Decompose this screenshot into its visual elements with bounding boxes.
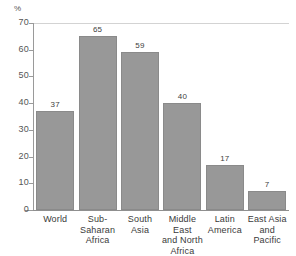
bar-middle-east-and-north-africa: 40 [163,103,201,210]
x-axis-category-label: World [34,214,76,225]
bar-south-asia: 59 [121,52,159,210]
bar-rect [163,103,201,210]
bar-rect [79,36,117,210]
category-label-line: Africa [161,246,203,256]
x-axis-category-label: East Asiaand Pacific [246,214,288,246]
category-label-line: and North [161,235,203,246]
category-label-line: Latin [204,214,246,225]
category-label-line: and Pacific [246,225,288,246]
category-label-line: America [204,225,246,236]
category-label-line: Asia [119,225,161,236]
bar-rect [36,111,74,210]
bar-world: 37 [36,111,74,210]
x-axis-category-label: LatinAmerica [204,214,246,235]
x-axis-category-label: Middle Eastand NorthAfrica [161,214,203,256]
x-axis-category-label: Sub-SaharanAfrica [76,214,118,246]
bar-rect [206,165,244,210]
bar-rect [248,191,286,210]
bar-value-label: 59 [121,41,159,50]
bar-sub-saharan-africa: 65 [79,36,117,210]
category-label-line: Africa [76,235,118,246]
category-label-line: South [119,214,161,225]
bar-value-label: 17 [206,154,244,163]
bar-value-label: 37 [36,100,74,109]
category-label-line: East Asia [246,214,288,225]
category-label-line: Saharan [76,225,118,236]
bar-value-label: 40 [163,92,201,101]
bar-value-label: 7 [248,180,286,189]
category-label-line: Sub- [76,214,118,225]
bar-value-label: 65 [79,25,117,34]
category-label-line: World [34,214,76,225]
bar-rect [121,52,159,210]
x-axis-category-label: SouthAsia [119,214,161,235]
category-label-line: Middle East [161,214,203,235]
bar-latin-america: 17 [206,165,244,210]
bar-east-asia-and-pacific: 7 [248,191,286,210]
